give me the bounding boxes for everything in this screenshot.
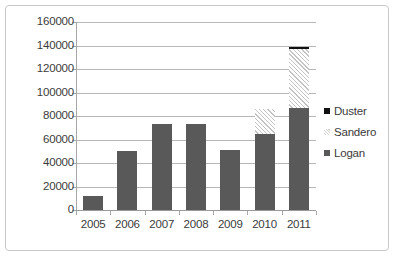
bar-segment-sandero[interactable]	[255, 109, 275, 134]
y-tick-label: 100000	[14, 87, 74, 98]
legend-item-logan[interactable]: Logan	[324, 142, 388, 163]
legend-item-sandero[interactable]: Sandero	[324, 121, 388, 142]
legend-label-logan: Logan	[334, 147, 365, 159]
y-tick-label: 60000	[14, 134, 74, 145]
bar-segment-logan[interactable]	[186, 124, 206, 210]
bar-segment-logan[interactable]	[152, 124, 172, 210]
bar-2011[interactable]	[289, 22, 309, 210]
bar-2008[interactable]	[186, 22, 206, 210]
chart-frame: 1600001400001200001000008000060000400002…	[5, 5, 389, 251]
x-tick-mark	[213, 211, 214, 215]
bar-segment-logan[interactable]	[117, 151, 137, 210]
x-tick-mark	[145, 211, 146, 215]
bar-2009[interactable]	[220, 22, 240, 210]
legend-swatch-logan-icon	[324, 150, 330, 156]
legend-label-sandero: Sandero	[334, 126, 376, 138]
legend-item-duster[interactable]: Duster	[324, 100, 388, 121]
y-tick-label: 140000	[14, 40, 74, 51]
x-tick-mark	[110, 211, 111, 215]
bar-segment-logan[interactable]	[220, 150, 240, 210]
y-tick-label: 20000	[14, 181, 74, 192]
bar-2006[interactable]	[117, 22, 137, 210]
stacked-bar-chart: 1600001400001200001000008000060000400002…	[6, 6, 390, 252]
bar-2005[interactable]	[83, 22, 103, 210]
bar-segment-sandero[interactable]	[289, 49, 309, 108]
y-axis-line	[76, 22, 77, 211]
x-tick-mark	[282, 211, 283, 215]
y-tick-label: 160000	[14, 16, 74, 27]
bar-2010[interactable]	[255, 22, 275, 210]
bar-segment-logan[interactable]	[83, 196, 103, 210]
bar-segment-logan[interactable]	[255, 134, 275, 210]
bar-segment-duster[interactable]	[289, 47, 309, 49]
legend-label-duster: Duster	[334, 105, 367, 117]
y-tick-label: 40000	[14, 157, 74, 168]
bar-2007[interactable]	[152, 22, 172, 210]
chart-legend: Duster Sandero Logan	[324, 100, 388, 163]
x-tick-mark	[76, 211, 77, 215]
bar-segment-logan[interactable]	[289, 108, 309, 210]
y-tick-label: 0	[14, 204, 74, 215]
y-tick-label: 80000	[14, 110, 74, 121]
x-tick-mark	[247, 211, 248, 215]
x-tick-label-2011: 2011	[279, 218, 319, 230]
x-tick-mark	[179, 211, 180, 215]
x-axis-line	[76, 210, 316, 211]
y-tick-label: 120000	[14, 63, 74, 74]
x-tick-mark	[316, 211, 317, 215]
legend-swatch-duster-icon	[324, 108, 330, 114]
legend-swatch-sandero-icon	[324, 129, 330, 135]
